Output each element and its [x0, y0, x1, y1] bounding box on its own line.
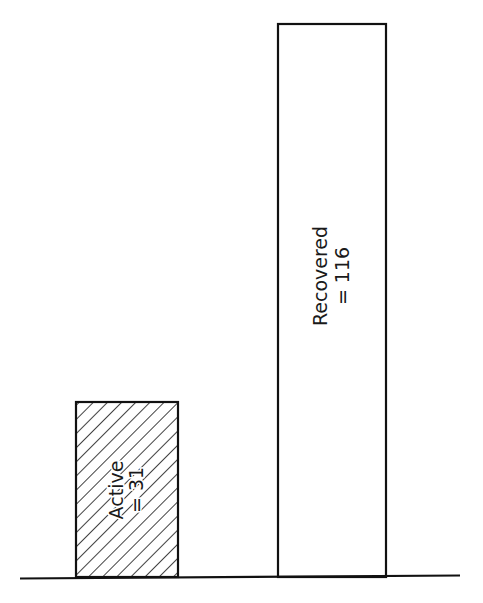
bar-recovered-value: = 116 [331, 247, 353, 305]
bar-chart: Active = 31 Recovered = 116 [0, 0, 483, 603]
bar-recovered: Recovered = 116 [278, 24, 386, 577]
bar-active-label: Active [105, 461, 127, 520]
bar-active-value: = 31 [125, 467, 147, 513]
bar-active: Active = 31 [76, 402, 178, 577]
bar-recovered-label: Recovered [309, 226, 331, 326]
